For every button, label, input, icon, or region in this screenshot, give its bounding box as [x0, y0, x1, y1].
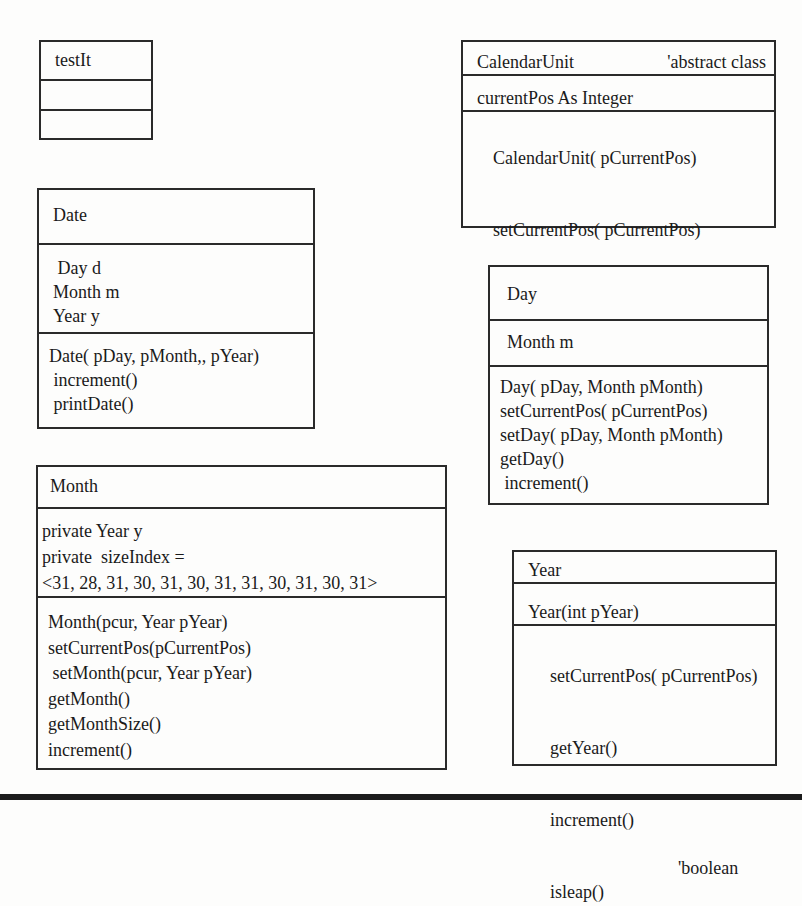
- method: increment(): [500, 471, 767, 495]
- class-calendarunit-stereotype: 'abstract class: [667, 50, 766, 74]
- attribute: Month m: [53, 280, 313, 304]
- method: setCurrentPos( pCurrentPos): [466, 194, 774, 266]
- class-testit-methods-compartment: [41, 111, 151, 138]
- class-date-name: Date: [53, 205, 87, 225]
- method: printDate(): [49, 392, 313, 416]
- attribute-size-index-values: <31, 28, 31, 30, 31, 30, 31, 31, 30, 31,…: [42, 570, 445, 596]
- method: getDay(): [500, 447, 767, 471]
- method-signature: setCurrentPos( pCurrentPos): [550, 666, 757, 686]
- method: setCurrentPos(pCurrentPos): [48, 636, 445, 662]
- method: increment(): [49, 368, 313, 392]
- class-month-name-compartment: Month: [38, 467, 445, 509]
- method: setMonth(pcur, Year pYear): [48, 661, 445, 687]
- method: setCurrentPos( pCurrentPos): [500, 399, 767, 423]
- bottom-border-bar: [0, 794, 802, 800]
- method: getMonthSize(): [48, 712, 445, 738]
- class-month: Month private Year y private sizeIndex =…: [36, 465, 447, 770]
- class-year-methods-compartment: setCurrentPos( pCurrentPos) getYear() in…: [514, 626, 775, 906]
- method: getYear(): [523, 712, 775, 784]
- class-testit-name-compartment: testIt: [41, 42, 151, 81]
- class-year-name-compartment: Year: [514, 552, 775, 584]
- class-calendarunit: CalendarUnit 'abstract class currentPos …: [461, 40, 776, 228]
- method: Month(pcur, Year pYear): [48, 610, 445, 636]
- attribute: private Year y: [42, 518, 445, 544]
- method: setDay( pDay, Month pMonth): [500, 423, 767, 447]
- class-date: Date Day d Month m Year y Date( pDay, pM…: [37, 188, 315, 429]
- class-year: Year Year(int pYear) setCurrentPos( pCur…: [512, 550, 777, 766]
- method: isleap() 'boolean: [523, 856, 775, 906]
- class-month-attributes-compartment: private Year y private sizeIndex = <31, …: [38, 509, 445, 598]
- class-year-attributes-compartment: Year(int pYear): [514, 584, 775, 626]
- method-signature: CalendarUnit( pCurrentPos): [493, 148, 696, 168]
- class-testit-name: testIt: [55, 50, 91, 70]
- attribute: Day d: [53, 256, 313, 280]
- class-testit: testIt: [39, 40, 153, 140]
- class-date-attributes-compartment: Day d Month m Year y: [39, 245, 313, 334]
- method: getMonth(): [48, 687, 445, 713]
- class-date-name-compartment: Date: [39, 190, 313, 245]
- class-day-methods-compartment: Day( pDay, Month pMonth) setCurrentPos( …: [490, 367, 767, 503]
- class-day-name-compartment: Day: [490, 267, 767, 321]
- attribute: private sizeIndex =: [42, 544, 445, 570]
- class-year-name: Year: [528, 560, 561, 580]
- method: CalendarUnit( pCurrentPos): [466, 122, 774, 194]
- class-month-name: Month: [50, 476, 98, 496]
- method: setCurrentPos( pCurrentPos): [523, 640, 775, 712]
- method-signature: getYear(): [550, 738, 617, 758]
- method: increment(): [48, 738, 445, 764]
- class-testit-attributes-compartment: [41, 81, 151, 111]
- class-day-name: Day: [507, 284, 537, 304]
- method-signature: increment(): [550, 810, 634, 830]
- method-signature: setCurrentPos( pCurrentPos): [493, 220, 700, 240]
- class-date-methods-compartment: Date( pDay, pMonth,, pYear) increment() …: [39, 334, 313, 427]
- class-day: Day Month m Day( pDay, Month pMonth) set…: [488, 265, 769, 505]
- attribute: Year y: [53, 304, 313, 328]
- class-calendarunit-name: CalendarUnit: [477, 52, 574, 72]
- method: Day( pDay, Month pMonth): [500, 375, 767, 399]
- class-day-attributes-compartment: Month m: [490, 321, 767, 367]
- class-month-methods-compartment: Month(pcur, Year pYear) setCurrentPos(pC…: [38, 598, 445, 768]
- method-return-note: 'boolean: [678, 856, 738, 880]
- attribute: Month m: [507, 330, 767, 354]
- class-calendarunit-name-compartment: CalendarUnit 'abstract class: [463, 42, 774, 76]
- method-signature: isleap(): [550, 882, 604, 902]
- class-calendarunit-attributes-compartment: currentPos As Integer: [463, 76, 774, 112]
- attribute: Year(int pYear): [528, 600, 775, 624]
- attribute: currentPos As Integer: [477, 86, 774, 110]
- method: Date( pDay, pMonth,, pYear): [49, 344, 313, 368]
